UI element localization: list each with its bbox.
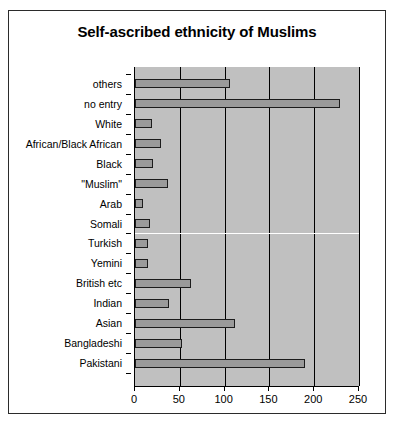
y-tick-end <box>126 373 131 374</box>
bar-somali <box>135 219 150 228</box>
bar-row <box>135 79 359 89</box>
x-tick-label-50: 50 <box>173 393 185 405</box>
bar-african-black-african <box>135 139 161 148</box>
y-axis-label-12: Asian <box>96 318 122 329</box>
y-axis-label-6: Arab <box>100 198 122 209</box>
gridline-250 <box>359 67 360 386</box>
bar-row <box>135 159 359 169</box>
bar-others <box>135 79 230 88</box>
y-tick-13 <box>126 333 131 334</box>
bar-series <box>135 67 359 386</box>
bar-row <box>135 99 359 109</box>
bar-black <box>135 159 153 168</box>
bar-row <box>135 179 359 189</box>
chart-figure: Self-ascribed ethnicity of Muslims other… <box>8 10 386 414</box>
bar-row <box>135 238 359 248</box>
bar-row <box>135 258 359 268</box>
bar-yemini <box>135 259 148 268</box>
bar-row <box>135 199 359 209</box>
y-tick-9 <box>126 253 131 254</box>
y-tick-3 <box>126 134 131 135</box>
y-tick-10 <box>126 273 131 274</box>
y-axis-label-5: "Muslim" <box>81 178 122 189</box>
bar-white <box>135 119 152 128</box>
bar--muslim- <box>135 179 168 188</box>
x-axis-ticks <box>134 386 359 392</box>
x-tick-label-200: 200 <box>304 393 322 405</box>
y-axis-label-8: Turkish <box>88 238 122 249</box>
y-tick-8 <box>126 233 131 234</box>
x-tick-label-100: 100 <box>214 393 232 405</box>
bar-british-etc <box>135 279 191 288</box>
y-axis-label-11: Indian <box>93 298 122 309</box>
y-axis-category-labels: othersno entryWhiteAfrican/Black African… <box>9 67 131 386</box>
x-tick-150 <box>268 386 269 391</box>
chart-title: Self-ascribed ethnicity of Muslims <box>9 23 385 40</box>
y-axis-label-3: African/Black African <box>26 138 122 149</box>
plot-area <box>134 67 359 387</box>
bar-row <box>135 338 359 348</box>
y-axis-label-10: British etc <box>76 278 122 289</box>
x-tick-50 <box>179 386 180 391</box>
x-tick-label-0: 0 <box>131 393 137 405</box>
x-tick-label-250: 250 <box>349 393 367 405</box>
y-axis-label-13: Bangladeshi <box>64 338 122 349</box>
bar-asian <box>135 319 235 328</box>
y-axis-label-4: Black <box>96 158 122 169</box>
bar-indian <box>135 299 169 308</box>
y-axis-label-1: no entry <box>84 98 122 109</box>
bar-row <box>135 298 359 308</box>
y-tick-5 <box>126 174 131 175</box>
bar-turkish <box>135 239 148 248</box>
y-tick-14 <box>126 353 131 354</box>
bar-pakistani <box>135 359 305 368</box>
y-axis-label-14: Pakistani <box>79 358 122 369</box>
bar-arab <box>135 199 143 208</box>
bar-row <box>135 358 359 368</box>
scanline-artifact <box>135 233 359 234</box>
x-tick-label-150: 150 <box>259 393 277 405</box>
y-tick-0 <box>126 74 131 75</box>
y-tick-1 <box>126 94 131 95</box>
y-axis-label-0: others <box>93 78 122 89</box>
y-tick-7 <box>126 214 131 215</box>
y-tick-12 <box>126 313 131 314</box>
bar-row <box>135 318 359 328</box>
y-tick-11 <box>126 293 131 294</box>
y-axis-label-7: Somali <box>90 218 122 229</box>
x-axis-tick-labels: 050100150200250 <box>9 393 385 409</box>
bar-row <box>135 278 359 288</box>
bar-bangladeshi <box>135 339 182 348</box>
y-axis-label-9: Yemini <box>91 258 122 269</box>
bar-row <box>135 139 359 149</box>
x-tick-100 <box>224 386 225 391</box>
x-tick-0 <box>134 386 135 391</box>
y-axis-label-2: White <box>95 118 122 129</box>
bar-row <box>135 219 359 229</box>
y-tick-6 <box>126 194 131 195</box>
y-tick-4 <box>126 154 131 155</box>
y-tick-2 <box>126 114 131 115</box>
x-tick-250 <box>358 386 359 391</box>
x-tick-200 <box>313 386 314 391</box>
bar-row <box>135 119 359 129</box>
bar-no-entry <box>135 99 340 108</box>
